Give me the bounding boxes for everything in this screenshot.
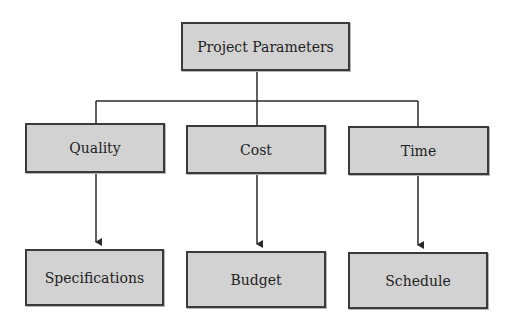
node-label: Cost	[240, 142, 272, 158]
node-label: Quality	[69, 140, 120, 156]
hierarchy-diagram: Project Parameters Quality Cost Time Spe…	[0, 0, 511, 323]
node-quality: Quality	[25, 123, 165, 173]
node-label: Budget	[230, 272, 281, 288]
node-specifications: Specifications	[25, 249, 164, 306]
node-label: Project Parameters	[197, 39, 334, 55]
node-time: Time	[348, 126, 489, 175]
node-cost: Cost	[186, 125, 326, 174]
node-label: Specifications	[45, 270, 144, 286]
node-schedule: Schedule	[348, 252, 488, 309]
node-label: Time	[401, 143, 436, 159]
node-label: Schedule	[385, 273, 450, 289]
node-project-parameters: Project Parameters	[181, 22, 350, 71]
node-budget: Budget	[186, 251, 326, 308]
